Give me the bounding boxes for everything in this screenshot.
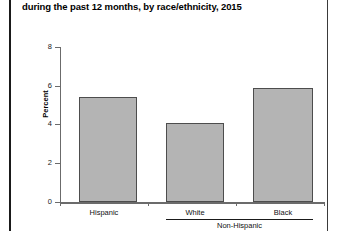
plot-area: 0 2 4 6 8 Percent Hispanic White Blac	[0, 0, 349, 231]
x-axis-label-hispanic: Hispanic	[64, 208, 144, 217]
y-tick-label-0-wrap: 0	[40, 198, 52, 206]
x-tick-mark-left	[60, 202, 61, 206]
y-tick-mark-6	[55, 86, 60, 87]
bar-black	[253, 88, 313, 202]
bar-hispanic	[79, 97, 137, 202]
x-axis-label-black: Black	[243, 208, 323, 217]
y-tick-mark-8	[55, 47, 60, 48]
x-axis-line	[60, 202, 325, 204]
y-tick-label-2: 2	[40, 159, 52, 167]
x-tick-mark-2	[236, 202, 237, 206]
y-tick-label-2-wrap: 2	[40, 159, 52, 167]
chart-figure: during the past 12 months, by race/ethni…	[0, 0, 349, 231]
x-tick-mark-right	[324, 202, 325, 206]
group-bracket-rule	[166, 219, 313, 220]
group-label-non-hispanic: Non-Hispanic	[166, 221, 313, 230]
y-axis-title: Percent	[42, 74, 50, 134]
y-tick-label-8-wrap: 8	[40, 43, 52, 51]
y-tick-mark-2	[55, 163, 60, 164]
bar-white	[166, 123, 224, 202]
x-axis-label-white: White	[155, 208, 235, 217]
y-tick-mark-4	[55, 124, 60, 125]
x-tick-mark-1	[148, 202, 149, 206]
y-tick-label-0: 0	[40, 198, 52, 206]
y-axis-line	[60, 47, 61, 203]
y-tick-label-8: 8	[40, 43, 52, 51]
